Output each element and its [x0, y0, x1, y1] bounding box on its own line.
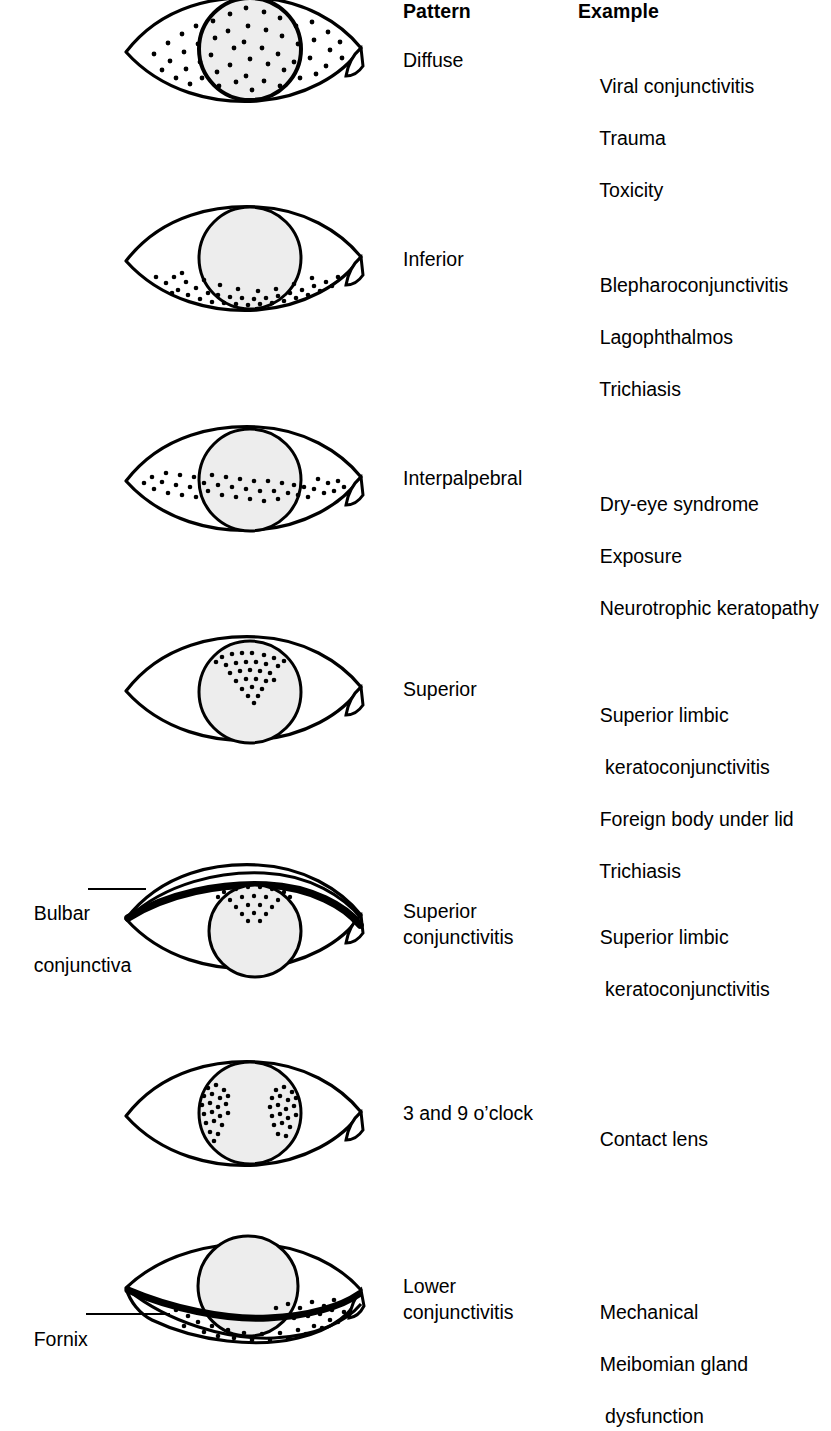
pattern-label-diffuse: Diffuse [403, 47, 463, 73]
annotation-bulbar-conjunctiva: Bulbar conjunctiva [12, 874, 131, 1004]
example-item: Superior limbic [600, 926, 729, 948]
example-item: dysfunction [600, 1405, 704, 1427]
annotation-line: Fornix [34, 1328, 88, 1350]
eye-diagram-inferior [118, 205, 368, 315]
column-header-example: Example [578, 0, 659, 23]
eye-diagram-diffuse [118, 0, 368, 106]
annotation-line: Bulbar [34, 902, 90, 924]
leader-line-bulbar-conjunctiva [88, 888, 146, 890]
example-item: Contact lens [600, 1128, 708, 1150]
example-item: Foreign body under lid [600, 808, 794, 830]
pattern-label-three-and-nine-oclock: 3 and 9 o’clock [403, 1100, 533, 1126]
pattern-label-superior: Superior [403, 676, 477, 702]
example-item: Mechanical [600, 1301, 699, 1323]
example-item: keratoconjunctivitis [600, 978, 770, 1000]
eye-diagram-lower-conjunctivitis [118, 1238, 368, 1358]
eye-diagram-interpalpebral [118, 425, 368, 535]
pattern-label-lower-conjunctivitis: Lower conjunctivitis [403, 1273, 514, 1325]
example-item: Trichiasis [599, 378, 681, 400]
example-item: Blepharoconjunctivitis [600, 274, 789, 296]
example-list-superior-conjunctivitis: Superior limbic keratoconjunctivitis [578, 898, 770, 1028]
pattern-label-interpalpebral: Interpalpebral [403, 465, 522, 491]
example-list-diffuse: Viral conjunctivitis Trauma Toxicity [578, 47, 754, 229]
example-list-interpalpebral: Dry-eye syndrome Exposure Neurotrophic k… [578, 465, 819, 647]
annotation-fornix: Fornix [12, 1300, 88, 1378]
example-item: Lagophthalmos [600, 326, 733, 348]
eye-diagram-superior-conjunctivitis [118, 863, 368, 973]
example-item: Exposure [600, 545, 682, 567]
example-item: keratoconjunctivitis [600, 756, 770, 778]
example-item: Meibomian gland [600, 1353, 749, 1375]
example-item: Trauma [599, 127, 665, 149]
eye-diagram-three-and-nine-oclock [118, 1060, 368, 1170]
example-item: Superior limbic [600, 704, 729, 726]
example-item: Neurotrophic keratopathy [600, 597, 819, 619]
example-list-lower-conjunctivitis: Mechanical Meibomian gland dysfunction [578, 1273, 748, 1431]
example-list-inferior: Blepharoconjunctivitis Lagophthalmos Tri… [578, 246, 788, 428]
pattern-label-superior-conjunctivitis: Superior conjunctivitis [403, 898, 514, 950]
example-list-three-and-nine-oclock: Contact lens [578, 1100, 708, 1178]
eye-diagram-superior [118, 635, 368, 745]
example-item: Dry-eye syndrome [600, 493, 759, 515]
column-header-pattern: Pattern [403, 0, 471, 23]
leader-line-fornix [86, 1313, 170, 1315]
example-item: Toxicity [599, 179, 663, 201]
example-list-superior: Superior limbic keratoconjunctivitis For… [578, 676, 794, 910]
example-item: Trichiasis [599, 860, 681, 882]
example-item: Viral conjunctivitis [600, 75, 755, 97]
annotation-line: conjunctiva [34, 954, 132, 976]
pattern-label-inferior: Inferior [403, 246, 464, 272]
